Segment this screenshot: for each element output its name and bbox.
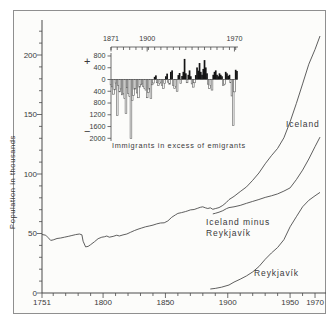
migration-bar-negative xyxy=(176,80,178,92)
migration-bar-negative xyxy=(224,80,226,85)
main-x-tick-label: 1800 xyxy=(94,298,112,307)
inset-y-tick-label: 0 xyxy=(102,75,106,84)
main-x-tick-label: 1850 xyxy=(157,298,175,307)
iceland-minus-reykjavik-series-label-line1: Iceland minus xyxy=(206,217,270,227)
migration-bar-positive xyxy=(155,75,157,79)
inset-minus-sign: − xyxy=(84,125,90,137)
migration-bar-negative xyxy=(164,80,166,84)
migration-bar-positive xyxy=(221,76,223,79)
reykjavik-series-label: Reykjavík xyxy=(254,268,299,278)
main-x-tick-label: 1900 xyxy=(219,298,237,307)
migration-bar-positive xyxy=(179,73,181,79)
migration-bar-positive xyxy=(166,74,168,80)
main-y-tick-label: 150 xyxy=(24,110,38,119)
main-axes xyxy=(37,20,326,298)
main-y-tick-label: 100 xyxy=(24,170,38,179)
y-axis-title: Population in thousands xyxy=(8,135,17,229)
main-x-tick-label: 1751 xyxy=(33,298,51,307)
migration-bar-negative xyxy=(180,80,182,84)
migration-bar-negative xyxy=(186,80,188,83)
inset-y-tick-label: 800 xyxy=(94,98,106,107)
migration-bar-positive xyxy=(229,75,231,80)
migration-bar-positive xyxy=(171,70,173,79)
main-y-tick-label: 50 xyxy=(28,229,37,238)
migration-bar-positive xyxy=(185,73,187,79)
inset-y-tick-label: 400 xyxy=(94,63,106,72)
net-migration-bars xyxy=(110,59,238,138)
inset-caption: Immigrants in excess of emigrants xyxy=(112,141,246,150)
main-y-tick-label: 0 xyxy=(33,289,38,298)
iceland-series-label: Iceland xyxy=(286,119,320,129)
iceland-minus-reykjavik-series-label-line2: Reykjavík xyxy=(206,228,251,238)
inset-plus-sign: + xyxy=(84,55,90,67)
inset-x-tick-label: 1970 xyxy=(226,34,242,43)
inset-y-tick-label: 400 xyxy=(94,87,106,96)
generated-chart-layers: 0501001502001751180018501900195019701871… xyxy=(24,20,326,307)
migration-bar-negative xyxy=(234,80,236,92)
migration-bar-positive xyxy=(206,73,208,79)
main-x-tick-label: 1970 xyxy=(306,298,324,307)
main-x-tick-label: 1950 xyxy=(281,298,299,307)
population-migration-chart: 0501001502001751180018501900195019701871… xyxy=(0,0,335,331)
inset-y-tick-label: 2000 xyxy=(90,134,106,143)
migration-bar-negative xyxy=(169,80,171,85)
migration-bar-negative xyxy=(194,80,196,83)
inset-x-tick-label: 1871 xyxy=(103,34,119,43)
migration-bar-positive xyxy=(236,71,238,80)
main-y-tick-label: 200 xyxy=(24,51,38,60)
migration-bar-negative xyxy=(211,80,213,91)
inset-y-tick-label: 1200 xyxy=(90,110,106,119)
inset-y-tick-label: 1600 xyxy=(90,122,106,131)
inset-x-tick-label: 1900 xyxy=(139,34,155,43)
migration-bar-positive xyxy=(190,76,192,79)
inset-y-tick-label: 800 xyxy=(94,51,106,60)
migration-bar-negative xyxy=(153,80,155,84)
population-series-lines xyxy=(42,36,320,289)
